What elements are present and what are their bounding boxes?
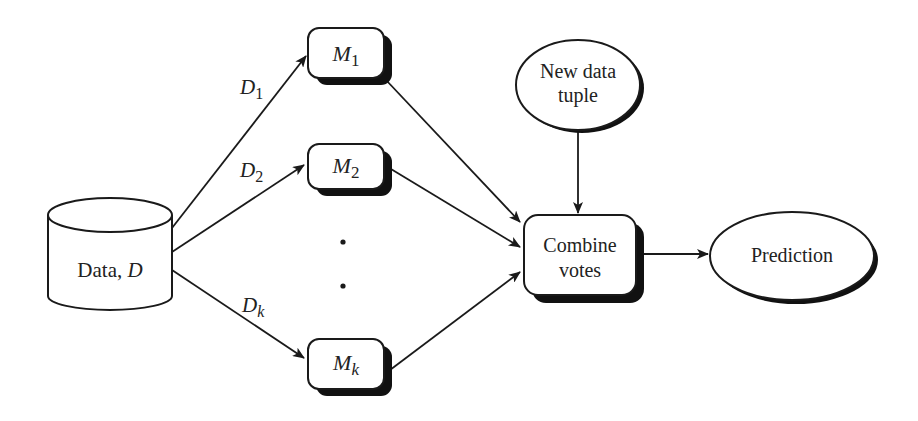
edge-data-to-mk <box>172 270 304 358</box>
new-data-tuple-node: New data tuple <box>516 40 644 133</box>
new-tuple-label-line1: New data <box>540 60 616 82</box>
combine-label-line2: votes <box>559 259 601 281</box>
new-tuple-label-line2: tuple <box>558 84 598 107</box>
edge-data-to-m2 <box>172 165 304 252</box>
model-node-m2: M2 <box>308 144 392 196</box>
prediction-label: Prediction <box>751 244 833 266</box>
ensemble-diagram: D1 D2 Dk Data, D M1 M2 Mk <box>0 0 918 421</box>
edge-label-dk: Dk <box>241 293 265 320</box>
edge-mk-to-combine <box>386 272 520 373</box>
combine-label-line1: Combine <box>543 234 616 256</box>
edge-label-d1: D1 <box>239 75 263 102</box>
edge-label-d2: D2 <box>239 158 263 185</box>
ellipsis-dots <box>340 239 345 288</box>
combine-votes-node: Combine votes <box>524 215 644 303</box>
edge-m2-to-combine <box>386 166 520 247</box>
edge-data-to-m1 <box>172 56 306 228</box>
data-store-node: Data, D <box>48 198 172 310</box>
prediction-node: Prediction <box>710 212 878 304</box>
data-store-label: Data, D <box>77 258 142 282</box>
edge-m1-to-combine <box>386 80 520 222</box>
model-node-m1: M1 <box>308 28 392 85</box>
model-node-mk: Mk <box>308 339 392 396</box>
cylinder-top <box>48 198 172 232</box>
